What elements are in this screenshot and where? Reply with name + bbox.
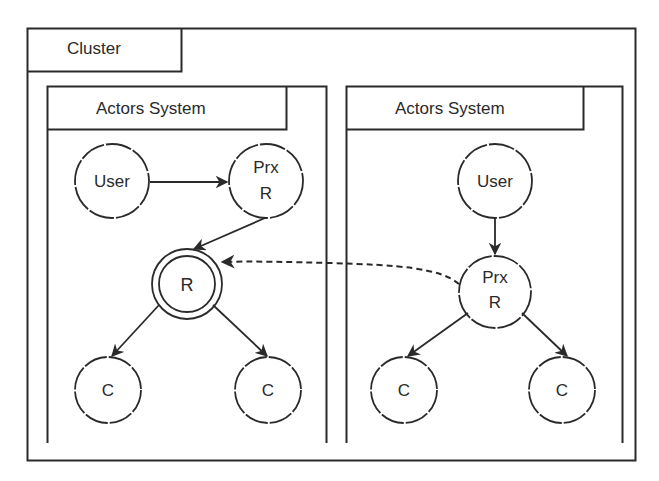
svg-text:C: C	[102, 381, 114, 400]
svg-text:R: R	[181, 275, 194, 295]
svg-text:User: User	[477, 172, 513, 191]
actor-system-left-label: Actors System	[96, 99, 206, 118]
svg-text:C: C	[556, 381, 568, 400]
node-user-left: User	[75, 144, 149, 218]
node-child-left-1: C	[75, 357, 141, 423]
edge-proxy-to-router-left	[194, 218, 265, 249]
node-child-left-2: C	[235, 357, 301, 423]
node-user-right: User	[458, 144, 532, 218]
svg-text:User: User	[94, 172, 130, 191]
actor-system-left: Actors System User Prx R R C C	[48, 87, 327, 444]
edge-router-to-child-left-1	[112, 305, 159, 356]
svg-text:C: C	[398, 381, 410, 400]
edge-router-to-child-left-2	[213, 305, 267, 356]
svg-text:R: R	[489, 293, 501, 312]
cluster-diagram: Cluster Actors System User Prx R R C	[0, 0, 659, 481]
edge-remote-proxy-to-router	[222, 262, 459, 284]
edge-proxy-to-child-right-1	[408, 313, 468, 356]
cluster-label: Cluster	[67, 39, 121, 58]
node-child-right-2: C	[529, 357, 595, 423]
actor-system-right-label: Actors System	[395, 99, 505, 118]
svg-text:Prx: Prx	[253, 158, 279, 177]
node-router-left: R	[152, 249, 222, 319]
node-child-right-1: C	[371, 357, 437, 423]
svg-text:Prx: Prx	[482, 268, 508, 287]
svg-text:R: R	[260, 184, 272, 203]
edge-proxy-to-child-right-2	[522, 313, 567, 356]
node-proxy-router-right: Prx R	[459, 256, 531, 328]
node-proxy-router-left: Prx R	[229, 144, 303, 218]
svg-text:C: C	[262, 381, 274, 400]
